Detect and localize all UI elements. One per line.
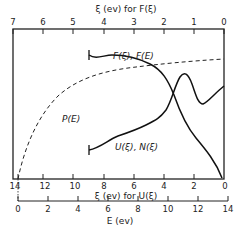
chart-figure: 7 6 5 4 3 2 1 0 ξ (ev) for F(ξ) 14 12 10… <box>0 0 242 232</box>
tick-label: 10 <box>163 204 174 214</box>
tick-label: 5 <box>70 17 75 27</box>
tick-label: 6 <box>131 181 136 191</box>
top-axis-label: ξ (ev) for F(ξ) <box>95 4 156 14</box>
series-U <box>89 74 224 150</box>
tick-label: 6 <box>40 17 45 27</box>
bottom-xi-axis <box>18 174 194 179</box>
tick-label: 4 <box>75 204 80 214</box>
tick-label: 2 <box>45 204 50 214</box>
tick-label: 0 <box>221 17 226 27</box>
bottom-E-axis-label: E (ev) <box>107 216 133 226</box>
label-P: P(E) <box>62 114 80 124</box>
tick-label: 3 <box>131 17 136 27</box>
tick-label: 2 <box>161 17 166 27</box>
series-F <box>89 55 222 178</box>
top-axis <box>13 29 224 34</box>
top-axis-tick-labels: 7 6 5 4 3 2 1 0 <box>10 17 226 27</box>
series-P-E <box>18 59 224 179</box>
bottom-xi-tick-labels: 14 12 10 8 6 4 2 0 <box>10 181 228 191</box>
tick-label: 12 <box>193 204 204 214</box>
tick-label: 4 <box>161 181 166 191</box>
tick-label: 8 <box>101 181 106 191</box>
tick-label: 6 <box>105 204 110 214</box>
tick-label: 7 <box>10 17 15 27</box>
tick-label: 14 <box>10 181 21 191</box>
bottom-xi-axis-label: ξ (ev) for U(ξ) <box>95 191 158 201</box>
bottom-E-tick-labels: 0 2 4 6 8 10 12 14 <box>15 204 233 214</box>
label-U: U(ξ), N(ξ) <box>115 142 158 152</box>
tick-label: 12 <box>40 181 51 191</box>
tick-label: 0 <box>222 181 227 191</box>
label-F: F(ξ), F(E) <box>113 51 154 61</box>
tick-label: 1 <box>191 17 196 27</box>
tick-label: 14 <box>223 204 234 214</box>
tick-label: 2 <box>191 181 196 191</box>
tick-label: 0 <box>15 204 20 214</box>
tick-label: 8 <box>135 204 140 214</box>
tick-label: 4 <box>101 17 106 27</box>
tick-label: 10 <box>70 181 81 191</box>
